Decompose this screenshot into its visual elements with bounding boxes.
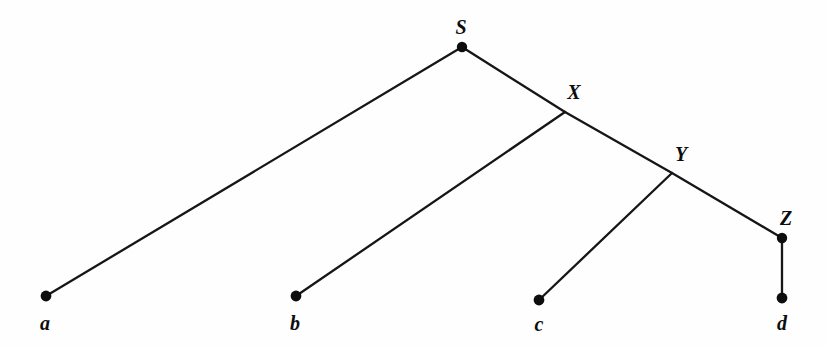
tree-edge-s-x bbox=[462, 47, 565, 112]
tree-node-dot-z bbox=[777, 233, 787, 243]
tree-node-label-b: b bbox=[290, 312, 300, 334]
tree-node-label-d: d bbox=[777, 312, 788, 334]
node-labels-group: SXYZabcd bbox=[40, 16, 792, 335]
tree-node-dot-b bbox=[291, 291, 302, 302]
nodes-group bbox=[41, 42, 788, 306]
tree-node-label-y: Y bbox=[675, 143, 689, 165]
tree-edge-s-a bbox=[46, 47, 462, 296]
tree-canvas: SXYZabcd bbox=[0, 0, 827, 346]
tree-node-label-z: Z bbox=[779, 207, 792, 229]
tree-edge-y-c bbox=[539, 173, 672, 300]
tree-node-dot-d bbox=[777, 293, 788, 304]
edges-group bbox=[46, 47, 782, 300]
tree-diagram: SXYZabcd bbox=[0, 0, 827, 346]
tree-edge-y-z bbox=[672, 173, 782, 238]
tree-node-dot-c bbox=[534, 295, 545, 306]
tree-node-label-s: S bbox=[455, 16, 466, 38]
tree-node-label-c: c bbox=[535, 313, 544, 335]
tree-node-label-x: X bbox=[566, 81, 581, 103]
tree-edge-x-y bbox=[565, 112, 672, 173]
tree-edge-x-b bbox=[296, 112, 565, 296]
tree-node-label-a: a bbox=[40, 312, 50, 334]
tree-node-dot-s bbox=[457, 42, 467, 52]
tree-node-dot-a bbox=[41, 291, 52, 302]
